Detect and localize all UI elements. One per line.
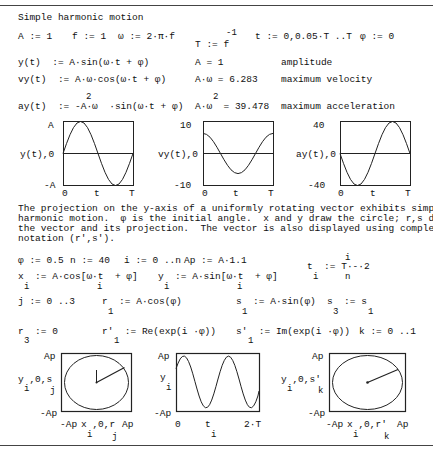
def-phi[interactable]: φ := 0	[360, 32, 394, 42]
plot-yi-ymin: -Ap	[154, 409, 171, 419]
desc-max-acceleration: maximum acceleration	[281, 102, 395, 112]
plot-circle-ymax: Ap	[44, 352, 55, 362]
def-omega[interactable]: ω := 2·π·f	[118, 32, 175, 42]
plot-vy-xlabel: t	[233, 189, 239, 199]
plot-yi-ylabel: y	[160, 373, 166, 383]
plot-complex-xmin: -Ap	[326, 420, 343, 430]
plot-ay-xmin: 0	[338, 189, 344, 199]
plot-projection-sine[interactable]	[176, 353, 262, 413]
plot-ay-ymax: 40	[313, 121, 324, 131]
plot-yi-xlabel: t	[205, 420, 211, 430]
plot-y-ymax: A	[48, 121, 54, 131]
def-n[interactable]: n := 40	[70, 256, 110, 266]
def-y-t-subscript: i	[237, 282, 242, 292]
def-r1[interactable]: r := A·cos(φ)	[102, 297, 182, 307]
def-ay[interactable]: ay(t) := -A·ω ·sin(ω·t + φ)	[18, 102, 183, 112]
plot-complex-vector[interactable]	[329, 353, 407, 413]
plot-circle-ylabel-sub-i: i	[24, 384, 29, 394]
plot-circle-ymin: -Ap	[40, 409, 57, 419]
plot-y-xmax: T	[129, 189, 135, 199]
def-phi-2[interactable]: φ := 0.5	[18, 256, 64, 266]
plot-ay-ymin: -40	[308, 181, 325, 191]
plot-vy-ymax: 10	[180, 121, 191, 131]
plot-y-of-t[interactable]	[63, 121, 134, 187]
def-s3-subscript: 3	[333, 307, 338, 317]
plot-y-ymin: -A	[44, 181, 55, 191]
def-A[interactable]: A := 1	[18, 32, 52, 42]
plot-complex-ylabel-sub-k: k	[318, 386, 323, 396]
desc-amplitude: amplitude	[281, 58, 332, 68]
plot-complex-ymax: Ap	[312, 352, 323, 362]
plot-complex-xmax: Ap	[397, 420, 408, 430]
plot-vy-ylabel: vy(t),0	[158, 150, 198, 160]
plot-complex-ymin: -Ap	[308, 409, 325, 419]
plot-complex-xlabel-sub-k: k	[384, 432, 389, 442]
bottom-rule	[0, 445, 433, 446]
plot-vy-ymin: -10	[174, 181, 191, 191]
plot-vy-of-t[interactable]	[203, 121, 274, 187]
plot-circle-xlabel: x ,0,r	[81, 420, 115, 430]
plot-yi-ylabel-sub-i: i	[166, 383, 171, 393]
def-x-i[interactable]: x := A·cos[ω·t + φ]	[18, 272, 138, 282]
top-rule	[0, 5, 433, 6]
def-y-i[interactable]: y := A·sin[ω·t + φ]	[158, 272, 278, 282]
worksheet-title: Simple harmonic motion	[18, 13, 143, 23]
plot-circle-xlabel-sub-i: i	[87, 430, 92, 440]
plot-ay-xlabel: t	[370, 189, 376, 199]
result-max-acceleration[interactable]: A·ω = 39.478	[195, 102, 269, 112]
plot-yi-xmax: 2·T	[244, 420, 261, 430]
def-s3-rhs-subscript: 1	[368, 307, 373, 317]
plot-circle-xmax: Ap	[122, 420, 133, 430]
result-max-velocity[interactable]: A·ω = 6.283	[195, 75, 258, 85]
plot-y-xmin: 0	[62, 189, 68, 199]
description-paragraph: The projection on the y-axis of a unifor…	[18, 204, 428, 244]
def-y[interactable]: y(t) := A·sin(ω·t + φ)	[18, 58, 149, 68]
plot-complex-xlabel: x ,0,r'	[347, 420, 387, 430]
plot-circle-xmin: -Ap	[60, 420, 77, 430]
plot-complex-ylabel-sub-i: i	[287, 384, 292, 394]
plot-y-xlabel: t	[94, 189, 100, 199]
def-r3-subscript: 3	[24, 336, 29, 346]
def-k-range[interactable]: k := 0 ..1	[359, 327, 416, 337]
plot-ay-ylabel: ay(t),0	[296, 150, 336, 160]
plot-y-ylabel: y(t),0	[20, 150, 54, 160]
def-T[interactable]: T := f	[195, 40, 229, 50]
plot-ay-xmax: T	[405, 189, 411, 199]
plot-circle-xlabel-sub-j: j	[112, 432, 117, 442]
def-s1[interactable]: s := A·sin(φ)	[236, 297, 316, 307]
plot-ay-of-t[interactable]	[340, 121, 411, 187]
plot-yi-xlabel-sub-i: i	[211, 430, 216, 440]
def-t-i-subscript: i	[313, 272, 318, 282]
plot-yi-xmin: 0	[175, 420, 181, 430]
def-i-range[interactable]: i := 0 ..n	[124, 256, 181, 266]
def-r1-subscript: 1	[108, 307, 113, 317]
def-t-i-denominator: n	[345, 272, 350, 282]
def-x-i-subscript: i	[24, 282, 29, 292]
def-j-range[interactable]: j := 0 ..3	[18, 297, 75, 307]
def-Ap[interactable]: Ap := A·1.1	[184, 256, 247, 266]
plot-vy-xmin: 0	[202, 189, 208, 199]
def-t-range[interactable]: t := 0,0.05·T ..T	[255, 32, 352, 42]
result-amplitude[interactable]: A = 1	[195, 58, 224, 68]
plot-complex-xlabel-sub-i: i	[353, 430, 358, 440]
def-y-i-subscript: i	[164, 282, 169, 292]
def-t-i[interactable]: t := T·-·2	[307, 262, 370, 272]
def-s3[interactable]: s := s	[327, 297, 367, 307]
plot-yi-ymax: Ap	[158, 352, 169, 362]
plot-circle-ylabel-sub-j: j	[50, 386, 55, 396]
desc-max-velocity: maximum velocity	[281, 75, 372, 85]
def-r-prime-1-subscript: 1	[114, 336, 119, 346]
plot-rotating-vector[interactable]	[61, 353, 133, 413]
def-s-prime-1-subscript: 1	[248, 336, 253, 346]
def-f[interactable]: f := 1	[72, 32, 106, 42]
def-x-t-subscript: i	[97, 282, 102, 292]
def-s1-subscript: 1	[242, 307, 247, 317]
def-T-exponent: -1	[226, 28, 237, 38]
plot-vy-xmax: T	[268, 189, 274, 199]
def-vy[interactable]: vy(t) := A·ω·cos(ω·t + φ)	[18, 75, 166, 85]
